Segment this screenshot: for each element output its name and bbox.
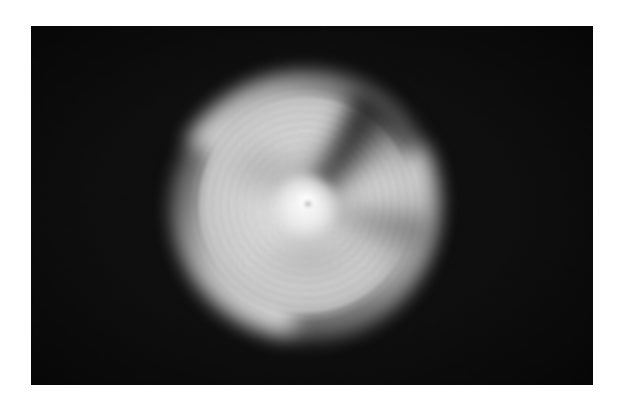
screenshot-root (0, 0, 624, 409)
photograph (31, 26, 593, 385)
hub-speck (305, 201, 312, 207)
